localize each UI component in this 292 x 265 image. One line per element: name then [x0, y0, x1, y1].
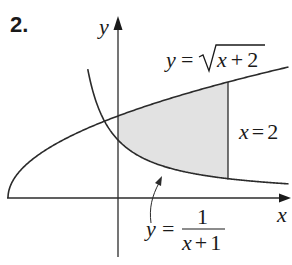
svg-text:1: 1: [197, 204, 208, 229]
svg-text:x+2: x+2: [216, 47, 258, 72]
pointer-arrow-icon: [155, 176, 162, 186]
shaded-region: [118, 82, 228, 179]
label-reciprocal-curve: y = 1 x+1: [144, 204, 225, 255]
y-axis-label: y: [97, 14, 109, 39]
svg-text:y: y: [144, 216, 156, 241]
problem-number: 2.: [10, 12, 28, 37]
svg-text:=: =: [181, 47, 193, 72]
x-axis-label: x: [276, 202, 287, 227]
label-sqrt-curve: y = x+2: [164, 45, 265, 72]
label-boundary: x=2: [238, 119, 278, 144]
svg-text:y: y: [164, 47, 176, 72]
diagram: 2. y x y = x+2 x=2 y = 1 x+1: [0, 0, 292, 265]
svg-text:x=2: x=2: [238, 119, 278, 144]
y-axis-arrow-icon: [114, 16, 123, 30]
svg-text:=: =: [162, 216, 174, 241]
svg-text:x+1: x+1: [181, 230, 221, 255]
